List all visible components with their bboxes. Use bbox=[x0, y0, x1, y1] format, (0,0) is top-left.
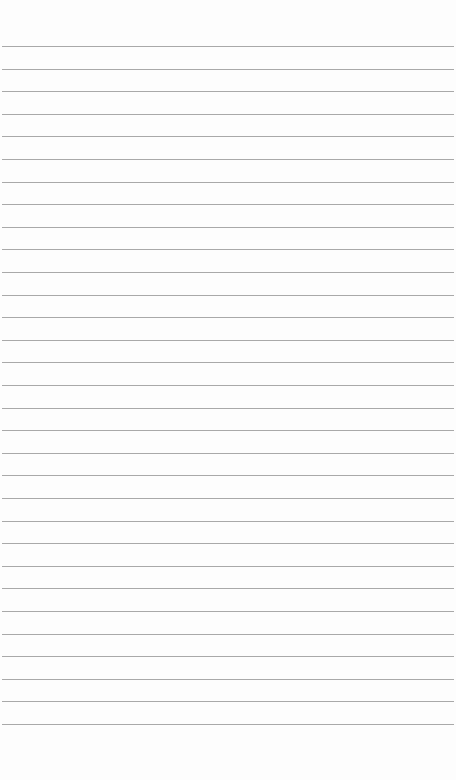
ruled-line bbox=[2, 656, 454, 657]
ruled-line bbox=[2, 159, 454, 160]
ruled-line bbox=[2, 453, 454, 454]
ruled-line bbox=[2, 701, 454, 702]
ruled-line bbox=[2, 408, 454, 409]
ruled-line bbox=[2, 114, 454, 115]
ruled-line bbox=[2, 362, 454, 363]
ruled-line bbox=[2, 521, 454, 522]
lined-paper-sheet bbox=[0, 0, 456, 780]
ruled-line bbox=[2, 634, 454, 635]
ruled-line bbox=[2, 566, 454, 567]
ruled-line bbox=[2, 46, 454, 47]
ruled-line bbox=[2, 272, 454, 273]
ruled-line bbox=[2, 249, 454, 250]
ruled-line bbox=[2, 430, 454, 431]
ruled-line bbox=[2, 136, 454, 137]
ruled-line bbox=[2, 227, 454, 228]
ruled-line bbox=[2, 679, 454, 680]
ruled-line bbox=[2, 204, 454, 205]
ruled-line bbox=[2, 724, 454, 725]
ruled-line bbox=[2, 91, 454, 92]
ruled-line bbox=[2, 611, 454, 612]
ruled-line bbox=[2, 543, 454, 544]
ruled-line bbox=[2, 340, 454, 341]
ruled-line bbox=[2, 295, 454, 296]
ruled-line bbox=[2, 385, 454, 386]
ruled-line bbox=[2, 475, 454, 476]
ruled-line bbox=[2, 498, 454, 499]
ruled-line bbox=[2, 69, 454, 70]
ruled-line bbox=[2, 317, 454, 318]
ruled-line bbox=[2, 588, 454, 589]
ruled-line bbox=[2, 182, 454, 183]
